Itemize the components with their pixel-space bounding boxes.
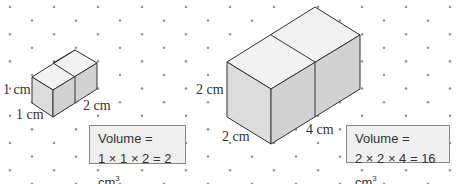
small-volume-box: Volume = 1 × 1 × 2 = 2 cm3 [89,125,186,164]
large-cuboid [227,7,360,144]
large-volume-line1: Volume = [355,129,449,149]
large-volume-box: Volume = 2 × 2 × 4 = 16 cm3 [346,125,450,163]
large-width-label: 2 cm [222,129,250,145]
small-width-label: 1 cm [16,107,44,123]
diagram-canvas: 1 cm 1 cm 2 cm Volume = 1 × 1 × 2 = 2 cm… [0,0,463,184]
large-length-label: 4 cm [306,122,334,138]
small-height-label: 1 cm [3,82,31,98]
large-volume-line2: 2 × 2 × 4 = 16 cm3 [355,149,449,184]
small-volume-line1: Volume = [98,129,185,149]
large-height-label: 2 cm [196,82,224,98]
small-volume-line2: 1 × 1 × 2 = 2 cm3 [98,149,185,184]
small-length-label: 2 cm [83,98,111,114]
